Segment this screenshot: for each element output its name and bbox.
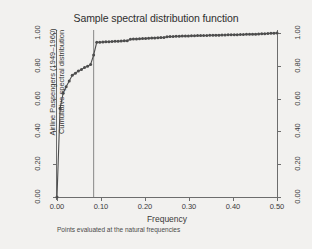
data-point [251,33,254,36]
y-tick-label-left: 1.00 [33,20,42,46]
y-tick-right [278,131,281,132]
data-point [248,33,251,36]
data-point [95,41,98,44]
data-point [123,39,126,42]
data-point [68,79,71,82]
data-point [159,36,162,39]
data-point [150,37,153,40]
data-point [193,34,196,37]
data-point [166,35,169,38]
data-point [144,37,147,40]
data-point [178,35,181,38]
data-point [239,33,242,36]
data-point [101,41,104,44]
series-markers [56,32,279,199]
data-point [227,33,230,36]
chart-title: Sample spectral distribution function [0,12,312,24]
x-tick-label: 0.50 [262,202,292,211]
chart-screenshot: Sample spectral distribution function 0.… [0,0,312,249]
x-axis-line [56,197,278,198]
data-point [138,37,141,40]
y-tick-left [53,164,56,165]
x-tick-label: 0.10 [86,202,116,211]
y-axis-title: Airline Passengers (1949–1960) Cumulativ… [48,0,66,164]
data-point [272,32,275,35]
y-tick-label-right: 1.00 [293,20,302,46]
data-point [80,68,83,71]
y-tick-label-right: 0.00 [293,184,302,210]
x-tick-label: 0.40 [218,202,248,211]
data-point [217,34,220,37]
y-tick-right [278,66,281,67]
data-point [56,196,59,199]
data-point [242,33,245,36]
data-point [224,33,227,36]
data-point [114,40,117,43]
y-axis-title-line-1: Airline Passengers (1949–1960) [48,0,57,164]
data-point [181,35,184,38]
data-point [71,74,74,77]
y-tick-label-right: 0.20 [293,151,302,177]
data-point [132,38,135,41]
data-point [92,53,95,56]
data-point [74,72,77,75]
data-point [233,33,236,36]
data-point [257,32,260,35]
data-point [86,65,89,68]
y-tick-label-left: 0.60 [33,85,42,111]
x-tick-label: 0.00 [42,202,72,211]
y-tick-label-left: 0.00 [33,184,42,210]
data-point [172,35,175,38]
data-point [162,36,165,39]
y-tick-right [278,197,281,198]
data-point [169,35,172,38]
data-point [214,34,217,37]
data-point [104,40,107,43]
data-point [77,69,80,72]
data-point [254,33,257,36]
y-tick-label-right: 0.80 [293,52,302,78]
data-point [196,34,199,37]
data-point [141,37,144,40]
data-point [129,38,132,41]
data-point [98,41,101,44]
data-point [175,35,178,38]
data-point [269,32,272,35]
data-series-layer [57,33,277,197]
data-point [190,34,193,37]
x-tick [277,198,278,201]
x-tick [189,198,190,201]
data-point [135,37,138,40]
data-point [245,33,248,36]
data-point [208,34,211,37]
data-point [199,34,202,37]
y-tick-label-left: 0.20 [33,151,42,177]
data-point [107,40,110,43]
x-axis-title: Frequency [57,214,277,224]
series-line [57,33,277,197]
data-point [221,33,224,36]
y-tick-right [278,164,281,165]
x-tick-label: 0.20 [130,202,160,211]
data-point [83,66,86,69]
y-tick-label-right: 0.60 [293,85,302,111]
x-tick-label: 0.30 [174,202,204,211]
x-tick [233,198,234,201]
data-point [156,36,159,39]
data-point [260,32,263,35]
y-tick-label-left: 0.40 [33,118,42,144]
data-point [187,34,190,37]
chart-note: Points evaluated at the natural frequenc… [57,226,180,233]
data-point [153,36,156,39]
data-point [263,32,266,35]
data-point [126,39,129,42]
data-point [205,34,208,37]
y-tick-right [278,99,281,100]
x-tick [145,198,146,201]
data-point [230,33,233,36]
data-point [211,34,214,37]
data-point [266,32,269,35]
data-point [147,37,150,40]
y-axis-title-line-2: Cumulative spectral distribution [57,0,66,164]
data-point [120,40,123,43]
